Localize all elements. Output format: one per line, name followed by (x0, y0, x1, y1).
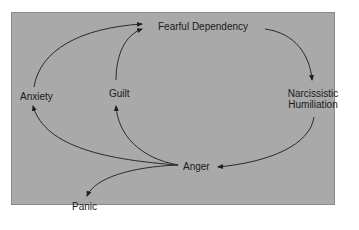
diagram-edges (0, 0, 359, 230)
edge-narcissistic-to-anger (218, 117, 314, 167)
node-narcissistic-line1: Narcissistic (285, 88, 341, 99)
edge-anger-to-anxiety (33, 106, 178, 165)
node-anger: Anger (183, 161, 210, 172)
node-narcissistic-humiliation: Narcissistic Humiliation (285, 88, 341, 110)
node-narcissistic-line2: Humiliation (285, 99, 341, 110)
node-guilt: Guilt (109, 88, 130, 99)
edge-guilt-to-fearful (116, 29, 142, 80)
edge-anger-to-guilt (116, 106, 178, 165)
node-fearful-dependency: Fearful Dependency (158, 21, 248, 32)
edge-anxiety-to-fearful (34, 24, 142, 87)
node-anxiety: Anxiety (20, 91, 53, 102)
edge-anger-to-panic (87, 165, 178, 196)
node-panic: Panic (72, 201, 97, 212)
edge-fearful-to-narcissistic (265, 29, 312, 80)
